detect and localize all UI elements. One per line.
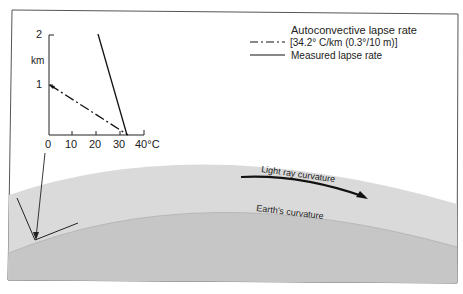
x-tick-0: 0 [45, 138, 51, 150]
y-axis-unit: km [31, 55, 44, 66]
x-tick-20: 20 [89, 138, 101, 150]
legend-autoconvective-label: Autoconvective lapse rate [291, 24, 417, 36]
x-tick-40: 40°C [135, 138, 160, 150]
x-tick-10: 10 [65, 138, 77, 150]
legend-measured-label: Measured lapse rate [291, 50, 382, 62]
y-tick-1: 1 [36, 78, 42, 90]
x-tick-30: 30 [113, 138, 125, 150]
legend-autoconvective-detail: [34.2° C/km (0.3°/10 m)] [290, 37, 397, 49]
y-tick-2: 2 [36, 28, 42, 40]
